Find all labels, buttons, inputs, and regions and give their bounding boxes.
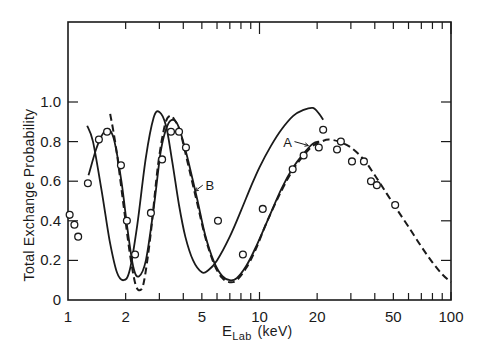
data-point-marker [361, 158, 368, 165]
plot-frame [68, 22, 451, 300]
x-axis-title-main: E [222, 322, 232, 339]
data-point-marker [71, 221, 78, 228]
curve-dashed [110, 114, 451, 290]
data-point-marker [75, 233, 82, 240]
y-tick-label: 0.8 [40, 133, 61, 150]
x-tick-label: 50 [385, 308, 402, 325]
data-point-marker [320, 126, 327, 133]
data-point-marker [289, 166, 296, 173]
data-point-marker [118, 162, 125, 169]
curve-label-b: B [205, 178, 214, 193]
data-point-marker [337, 138, 344, 145]
data-point-marker [315, 144, 322, 151]
y-tick-label: 0.6 [40, 172, 61, 189]
data-point-marker [104, 128, 111, 135]
data-point-marker [334, 146, 341, 153]
y-axis-ticks [68, 102, 451, 260]
x-axis-ticks [126, 22, 451, 300]
exchange-probability-chart: 125102050100 00.20.40.60.81.0 AB Total E… [0, 0, 485, 359]
y-tick-label: 0.2 [40, 251, 61, 268]
x-axis-title: ELab(keV) [222, 322, 293, 342]
x-tick-label: 100 [438, 308, 463, 325]
x-tick-label: 20 [309, 308, 326, 325]
x-tick-label: 2 [121, 308, 129, 325]
data-point-marker [183, 144, 190, 151]
data-point-marker [373, 182, 380, 189]
data-point-marker [300, 152, 307, 159]
x-axis-title-sub: Lab [232, 330, 251, 342]
data-point-marker [392, 202, 399, 209]
data-point-marker [349, 158, 356, 165]
x-axis-title-unit: (keV) [258, 323, 293, 339]
curve-label-a: A [283, 135, 292, 150]
data-point-marker [259, 206, 266, 213]
y-tick-label: 0 [53, 291, 61, 308]
x-tick-label: 5 [198, 308, 206, 325]
curves [87, 108, 451, 291]
data-point-marker [168, 128, 175, 135]
y-axis-tick-labels: 00.20.40.60.81.0 [40, 93, 61, 308]
data-point-marker [176, 128, 183, 135]
data-point-marker [123, 217, 130, 224]
data-point-marker [148, 209, 155, 216]
data-point-marker [84, 180, 91, 187]
data-point-marker [239, 251, 246, 258]
data-point-marker [132, 251, 139, 258]
data-point-marker [96, 136, 103, 143]
y-axis-title: Total Exchange Probability [21, 109, 37, 282]
y-tick-label: 0.4 [40, 212, 61, 229]
data-point-marker [215, 217, 222, 224]
data-point-marker [66, 211, 73, 218]
data-point-marker [159, 156, 166, 163]
y-tick-label: 1.0 [40, 93, 61, 110]
x-tick-label: 1 [64, 308, 72, 325]
